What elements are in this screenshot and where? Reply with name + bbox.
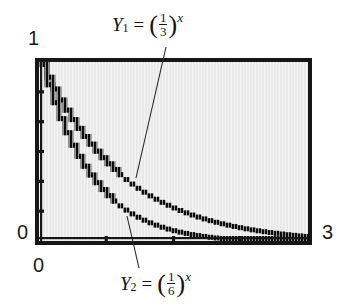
y1-open-paren: ( xyxy=(149,16,158,34)
leader-line-y2 xyxy=(127,216,139,268)
y2-close-paren: ) xyxy=(176,275,185,293)
x-axis-max-value: 3 xyxy=(322,222,333,242)
y2-equals: = xyxy=(142,273,153,295)
y2-open-paren: ( xyxy=(157,275,166,293)
x-axis-line xyxy=(39,237,308,239)
y-axis-line xyxy=(40,62,42,241)
y2-denominator: 6 xyxy=(167,283,176,297)
y2-numerator: 1 xyxy=(167,270,176,283)
y2-variable: Y xyxy=(120,273,131,295)
y1-equals: = xyxy=(134,14,145,36)
overlay-canvas xyxy=(0,0,348,306)
function-label-y1: Y1 = ( 1 3 ) x xyxy=(112,11,183,39)
y1-variable: Y xyxy=(112,14,123,36)
y1-close-paren: ) xyxy=(168,16,177,34)
y-axis-top-value: 1 xyxy=(28,28,39,48)
x-axis-zero-value: 0 xyxy=(33,255,44,275)
y1-exponent: x xyxy=(177,10,183,26)
leader-line-y1 xyxy=(136,47,166,178)
y2-fraction: 1 6 xyxy=(167,270,176,298)
y-axis-zero-value: 0 xyxy=(17,222,28,242)
y2-subscript: 2 xyxy=(131,280,137,295)
y1-numerator: 1 xyxy=(159,11,168,24)
y1-subscript: 1 xyxy=(123,21,129,36)
function-label-y2: Y2 = ( 1 6 ) x xyxy=(120,270,191,298)
y1-denominator: 3 xyxy=(159,24,168,38)
exponential-decay-figure: 1 1 0 0 3 Y1 = ( 1 3 ) x Y2 = ( 1 6 ) x xyxy=(0,0,348,306)
y2-exponent: x xyxy=(185,269,191,285)
y1-fraction: 1 3 xyxy=(159,11,168,39)
